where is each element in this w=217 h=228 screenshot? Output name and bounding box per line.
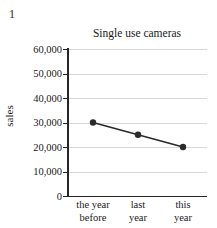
series-markers	[90, 119, 186, 150]
x-axis-tick-label-line: this	[155, 199, 211, 212]
chart-figure: Single use cameras sales 010,00020,00030…	[0, 0, 217, 228]
data-point	[135, 132, 141, 138]
x-axis-tick-label: thisyear	[155, 199, 211, 224]
y-axis-tick	[63, 147, 68, 148]
data-point	[180, 144, 186, 150]
y-axis-tick	[63, 49, 68, 50]
data-point	[90, 119, 96, 125]
y-axis-tick	[63, 98, 68, 99]
y-axis-tick	[63, 74, 68, 75]
y-axis-tick	[63, 123, 68, 124]
x-axis-tick-label-line: year	[155, 212, 211, 225]
y-axis-tick	[63, 172, 68, 173]
data-series	[0, 0, 217, 228]
y-axis-tick	[63, 196, 68, 197]
